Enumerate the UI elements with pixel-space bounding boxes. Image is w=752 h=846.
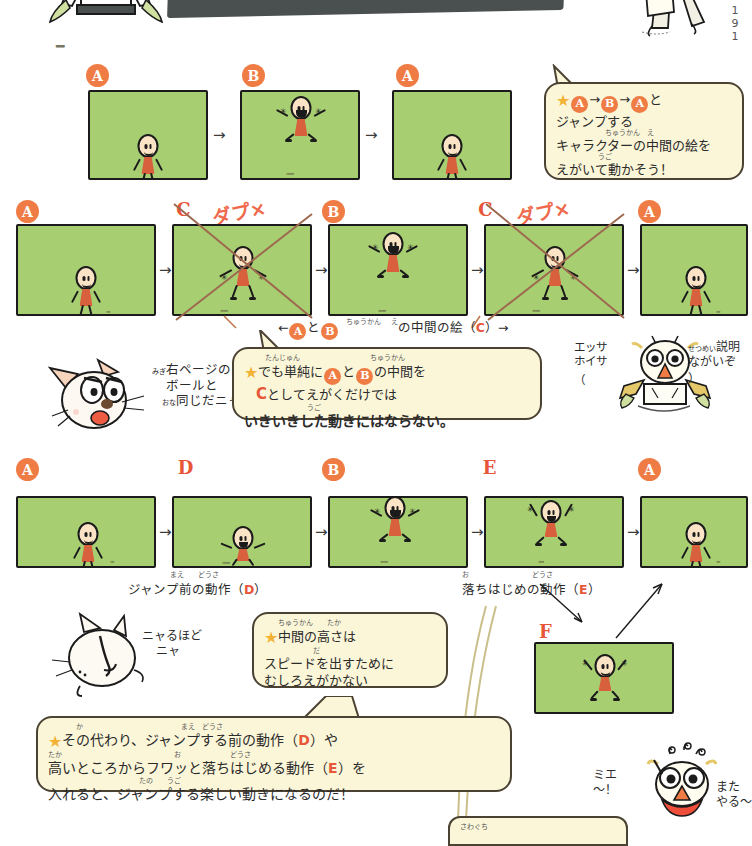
cat2-note-line-1: ニャるほど [142, 629, 202, 644]
frame-label-a2: A [396, 64, 419, 87]
bird-note-left: エッサ ホイサ （ [574, 340, 607, 387]
frame-label-e1: E [478, 456, 501, 479]
stick-figure-stand [430, 134, 474, 178]
kid-character-top-right [612, 0, 732, 36]
cat2-note-line-2: ニャ [142, 644, 202, 659]
storyboard-frame-f: ✳ ✳ [534, 642, 674, 714]
stick-figure-stand [674, 522, 718, 566]
storyboard-frame-a1: '''' [88, 90, 208, 180]
stick-figure-stand [674, 266, 718, 310]
kid-character-top-left [44, 0, 174, 30]
stick-figure-jump: ✳ ✳ [278, 96, 324, 140]
storyboard-frame-a4: '''' [640, 224, 748, 316]
frame-label-a6: A [638, 458, 661, 481]
bubble-1-line-1: ★A→B→Aと [556, 90, 732, 113]
bubble-bottom-text: さわぐち [460, 824, 616, 831]
bird2-note-right: また やる〜 [716, 780, 752, 810]
arrow-3-1: → [159, 525, 172, 540]
storyboard-frame-a5: '''' [16, 496, 156, 568]
storyboard-frame-c1: ✳ ✳ '''''''' [172, 224, 312, 316]
bird2-note-right-line-1: また [716, 780, 752, 795]
frame-label-a1: A [86, 64, 109, 87]
arrow-1-2: → [365, 128, 378, 143]
cat-note-line-1: みぎ右ページの [152, 362, 241, 378]
cat-character-2 [50, 614, 155, 696]
bird-note-left-line-2: ホイサ [574, 354, 607, 368]
bubble-2-line-3: うごいきいきした動きにはならない。 [244, 405, 530, 430]
arrow-3-4: → [627, 525, 640, 540]
bubble-3-line-2: だスピードを出すために [264, 648, 436, 672]
storyboard-frame-b1: ✳ ✳ '''''''' [240, 90, 360, 180]
stick-figure-mid: ✳ ✳ [220, 246, 266, 294]
storyboard-frame-a6: '''' [640, 496, 748, 568]
cat-note: みぎ右ページの ボールと おな同じだニャ [152, 362, 241, 409]
arrow-1-1: → [213, 128, 226, 143]
arrow-2-1: → [159, 263, 172, 278]
cat-note-line-3: おな同じだニャ [152, 393, 241, 409]
storyboard-frame-c2: ✳ ✳ '''''''' [484, 224, 624, 316]
frame-label-a3: A [16, 200, 39, 223]
bubble-4-line-3: たの うご入れると、ジャンプする楽しい動きになるのだ！ [48, 778, 500, 803]
storyboard-frame-e1: ✳ ✳ '''''' [484, 496, 624, 568]
ground-squiggle: '''''''''''''''''' [55, 44, 64, 54]
bird-note-right-line-3: ） [688, 372, 740, 387]
bird-note-left-line-1: エッサ [574, 340, 607, 354]
bird-note-left-line-3: （ [574, 373, 607, 387]
bubble-2: たんじゅん ちゅうかん ★でも単純にAとBの中間を Cとしてえがくだけでは うご… [232, 347, 542, 420]
bubble-2-line-2: Cとしてえがくだけでは [244, 385, 530, 405]
stick-figure-fall: ✳ ✳ [528, 500, 574, 544]
stick-figure-stand [126, 134, 170, 178]
frame-label-c2: C [474, 198, 497, 221]
storyboard-frame-d1: '''''''' [172, 496, 312, 568]
bubble-3: ちゅうかん たか ★中間の高さは だスピードを出すために むしろえがかない [252, 612, 448, 688]
stick-figure-mid: ✳ ✳ [532, 246, 578, 294]
frame-label-b1: B [242, 64, 265, 87]
stick-figure-stand [64, 266, 108, 310]
bubble-1-line-3: ちゅうかん えキャラクターの中間の絵を [556, 130, 732, 154]
storyboard-frame-a3: '''' [16, 224, 156, 316]
arrow-2-2: → [315, 263, 328, 278]
arrow-2-4: → [627, 263, 640, 278]
frame-label-f: F [534, 620, 557, 643]
star-icon: ★ [48, 732, 62, 751]
bubble-4-line-2: たか お どうさ高いところからフワッと落ちはじめる動作（E）を [48, 752, 500, 777]
bird-note-right: せつめい説明 ながいぞ ） [688, 340, 740, 387]
bubble-4: か まえ どうさ ★その代わり、ジャンプする前の動作（D）や たか お どうさ高… [36, 716, 512, 792]
arrow-2-3: → [471, 263, 484, 278]
arrow-3-2: → [315, 525, 328, 540]
frame-label-a5: A [16, 458, 39, 481]
stick-figure-jump: ✳ ✳ [372, 496, 418, 540]
bubble-bottom-fragment: さわぐち [448, 816, 628, 846]
cat2-note: ニャるほど ニャ [142, 629, 202, 659]
bubble-4-line-1: か まえ どうさ ★その代わり、ジャンプする前の動作（D）や [48, 724, 500, 752]
star-icon: ★ [264, 628, 278, 647]
row2-caption: ←AとB ちゅうかん えの中間の絵（C）→ [278, 317, 508, 340]
frame-label-a4: A [638, 200, 661, 223]
bird-note-right-line-1: せつめい説明 [688, 340, 740, 355]
bird2-note-left: ミエ 〜！ [593, 768, 617, 798]
frame-label-c1: C [172, 198, 195, 221]
page-title: ジャンプするキャラクター [186, 0, 556, 6]
bird2-note-right-line-2: やる〜 [716, 795, 752, 810]
stick-figure-stand [66, 522, 110, 566]
storyboard-frame-b3: ✳ ✳ '''''''' [328, 496, 468, 568]
storyboard-frame-a2: '''' [392, 90, 512, 180]
bubble-1-line-4: うごえがいて動かそう！ [556, 154, 732, 178]
arrow-3-3: → [471, 525, 484, 540]
bubble-1: ★A→B→Aと ジャンプする ちゅうかん えキャラクターの中間の絵を うごえがい… [544, 82, 744, 180]
frame-label-b2: B [322, 200, 345, 223]
star-icon: ★ [556, 91, 570, 110]
frame-label-b3: B [322, 458, 345, 481]
cat-note-line-2: ボールと [152, 378, 241, 394]
bird-note-right-line-2: ながいぞ [688, 355, 740, 370]
frame-label-d1: D [174, 456, 197, 479]
bubble-3-line-3: むしろえがかない [264, 672, 436, 689]
cat-character [46, 358, 156, 436]
star-icon: ★ [244, 363, 258, 382]
stick-figure-peak: ✳ ✳ [582, 654, 628, 698]
bubble-3-line-1: ちゅうかん たか ★中間の高さは [264, 620, 436, 648]
bird2-note-left-line-1: ミエ [593, 768, 617, 783]
stick-figure-jump: ✳ ✳ [370, 232, 416, 276]
arrow-out-frame-f [606, 578, 686, 642]
